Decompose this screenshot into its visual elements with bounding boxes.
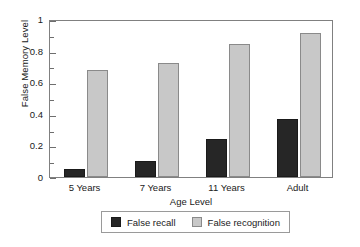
y-axis-tick-label: 0.8: [17, 47, 43, 57]
x-axis-tick-label: 5 Years: [69, 182, 101, 193]
y-axis-minor-tick: [50, 163, 54, 164]
y-axis-tick-labels: 00.20.40.60.81: [17, 20, 43, 178]
legend-label: False recall: [127, 217, 176, 228]
x-axis-tick-label: Adult: [287, 182, 309, 193]
x-axis-tick-label: 7 Years: [140, 182, 172, 193]
y-axis-minor-tick: [50, 100, 54, 101]
legend-label: False recognition: [208, 217, 280, 228]
legend-swatch-false-recognition: [192, 217, 202, 227]
bar-adult-false-recall: [277, 119, 298, 177]
y-axis-minor-tick: [50, 37, 54, 38]
y-axis-tick-label: 0: [17, 173, 43, 183]
bar-11-years-false-recognition: [229, 44, 250, 177]
y-axis-tick-label: 0.4: [17, 110, 43, 120]
y-axis-minor-tick: [50, 132, 54, 133]
x-axis-title: Age Level: [49, 196, 333, 207]
legend-item: False recall: [111, 217, 176, 228]
y-axis-major-tick: [50, 84, 56, 85]
bar-chart-figure: False Memory Level 00.20.40.60.81 Age Le…: [0, 0, 360, 247]
y-axis-minor-tick: [50, 68, 54, 69]
y-axis-tick-label: 0.6: [17, 78, 43, 88]
y-axis-major-tick: [50, 53, 56, 54]
legend-item: False recognition: [192, 217, 280, 228]
y-axis-major-tick: [50, 178, 56, 179]
y-axis-tick-label: 0.2: [17, 141, 43, 151]
chart-legend: False recallFalse recognition: [101, 211, 290, 233]
y-axis-major-tick: [50, 21, 56, 22]
x-axis-tick-label: 11 Years: [208, 182, 244, 193]
y-axis-major-tick: [50, 147, 56, 148]
y-axis-tick-label: 1: [17, 15, 43, 25]
y-axis-major-tick: [50, 116, 56, 117]
bar-5-years-false-recognition: [87, 70, 108, 177]
bar-7-years-false-recognition: [158, 63, 179, 177]
bar-11-years-false-recall: [206, 139, 227, 177]
bar-5-years-false-recall: [64, 169, 85, 177]
bar-7-years-false-recall: [135, 161, 156, 177]
bar-adult-false-recognition: [300, 33, 321, 177]
plot-area: [49, 20, 333, 178]
legend-swatch-false-recall: [111, 217, 121, 227]
